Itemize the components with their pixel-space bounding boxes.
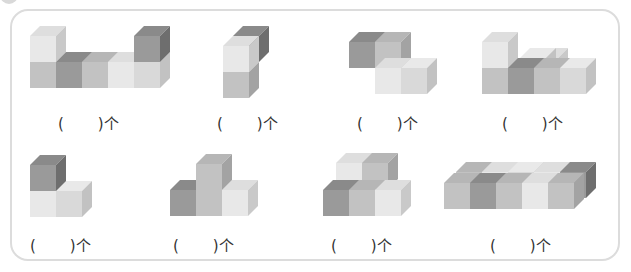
cube-figure-4 (482, 32, 596, 94)
cube-figures (0, 0, 631, 272)
cube (30, 155, 66, 191)
cube (196, 154, 232, 190)
open-paren: ( (58, 115, 64, 133)
cube (482, 32, 518, 68)
cube (222, 180, 258, 216)
open-paren: ( (217, 115, 223, 133)
cube (134, 26, 170, 62)
open-paren: ( (502, 115, 508, 133)
cube-figure-5 (30, 155, 92, 217)
unit-label: 个 (403, 112, 418, 133)
cube (223, 36, 259, 72)
answer-blank-3[interactable]: ()个 (357, 112, 418, 133)
unit-label: 个 (76, 234, 91, 255)
unit-label: 个 (377, 234, 392, 255)
answer-blank-5[interactable]: ()个 (30, 234, 91, 255)
unit-label: 个 (263, 112, 278, 133)
answer-blank-8[interactable]: ()个 (490, 234, 551, 255)
answer-blank-2[interactable]: ()个 (217, 112, 278, 133)
cube (401, 58, 437, 94)
cube (548, 173, 584, 209)
unit-label: 个 (104, 112, 119, 133)
cube-figure-8 (444, 162, 596, 209)
cube-figure-6 (170, 154, 258, 216)
cube (30, 26, 66, 62)
cube (56, 181, 92, 217)
answer-blank-1[interactable]: ()个 (58, 112, 119, 133)
open-paren: ( (490, 237, 496, 255)
unit-label: 个 (219, 234, 234, 255)
open-paren: ( (357, 115, 363, 133)
open-paren: ( (173, 237, 179, 255)
cube (375, 180, 411, 216)
open-paren: ( (331, 237, 337, 255)
cube-figure-7 (323, 153, 411, 216)
cube-figure-1 (30, 26, 170, 88)
answer-blank-4[interactable]: ()个 (502, 112, 563, 133)
cube-figure-2 (223, 26, 269, 98)
answer-blank-6[interactable]: ()个 (173, 234, 234, 255)
unit-label: 个 (536, 234, 551, 255)
open-paren: ( (30, 237, 36, 255)
cube (560, 58, 596, 94)
cube-figure-3 (349, 32, 437, 94)
answer-blank-7[interactable]: ()个 (331, 234, 392, 255)
unit-label: 个 (548, 112, 563, 133)
